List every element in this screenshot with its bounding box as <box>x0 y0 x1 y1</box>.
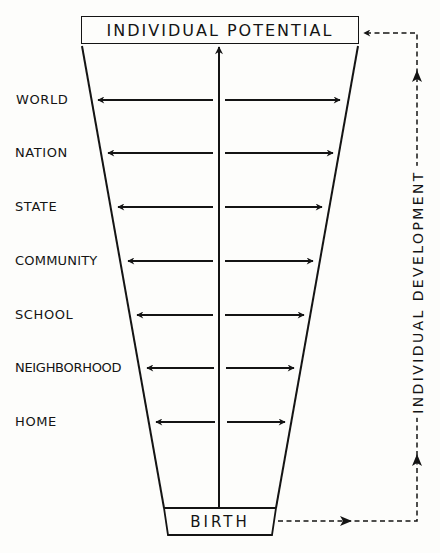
birth-box: BIRTH <box>170 510 270 534</box>
level-label-state: STATE <box>15 200 57 214</box>
diagram-canvas: INDIVIDUAL POTENTIAL BIRTH INDIVIDUAL DE… <box>0 0 440 553</box>
level-label-world: WORLD <box>16 93 68 107</box>
level-label-school: SCHOOL <box>15 308 73 322</box>
funnel-left-edge <box>82 46 164 508</box>
level-label-community: COMMUNITY <box>15 254 98 268</box>
level-label-nation: NATION <box>15 146 68 160</box>
level-label-home: HOME <box>15 415 57 429</box>
diagram-lines <box>0 0 440 553</box>
funnel-right-edge <box>276 46 358 508</box>
individual-development-label: INDIVIDUAL DEVELOPMENT <box>410 166 426 418</box>
individual-potential-label: INDIVIDUAL POTENTIAL <box>107 21 334 40</box>
individual-potential-box: INDIVIDUAL POTENTIAL <box>81 16 359 44</box>
birth-label: BIRTH <box>190 513 250 531</box>
level-label-neighborhood: NEIGHBORHOOD <box>15 361 121 375</box>
